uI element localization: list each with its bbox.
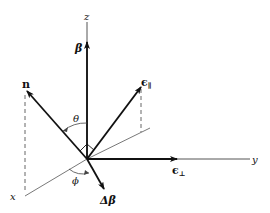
- phi-arrowhead: [84, 170, 89, 175]
- eps-perp-label: ϵ⊥: [172, 164, 185, 178]
- theta-label: θ: [73, 113, 79, 124]
- eps-parallel-label: ϵ∥: [141, 76, 151, 90]
- z-axis-label: z: [83, 11, 90, 22]
- n-vector: [27, 91, 87, 159]
- y-axis-label: y: [251, 154, 258, 165]
- x-axis-label: x: [10, 191, 16, 202]
- eps-parallel-vector: [87, 87, 141, 159]
- delta-beta-vector: [87, 159, 104, 189]
- theta-arrowhead: [63, 127, 68, 132]
- delta-beta-label: Δβ: [99, 194, 117, 207]
- phi-label: ϕ: [72, 175, 79, 186]
- n-label: n: [22, 78, 30, 91]
- beta-label: β: [74, 42, 83, 55]
- projection-line-eps-par: [87, 128, 150, 159]
- polarization-diagram: z y x β n ϵ∥ ϵ⊥ Δβ θ ϕ: [0, 0, 270, 213]
